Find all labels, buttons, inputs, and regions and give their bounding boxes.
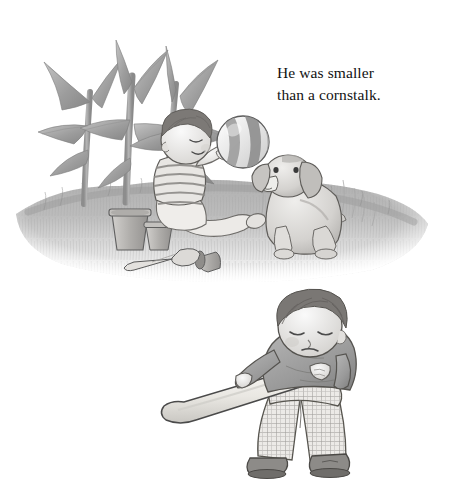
shoes — [247, 454, 350, 479]
illustration-boy-with-baseball-bat — [150, 288, 450, 488]
illustration-baby-with-ball-and-puppy — [0, 18, 450, 288]
picture-book-page: He was smaller than a cornstalk. — [0, 0, 450, 488]
caption-text: He was smaller than a cornstalk. — [277, 62, 442, 106]
striped-ball — [217, 114, 275, 170]
